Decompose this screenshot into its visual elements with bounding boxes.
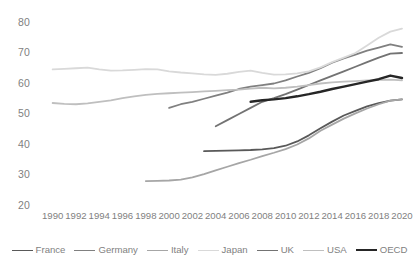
legend-item-italy[interactable]: Italy — [147, 244, 189, 256]
legend-item-usa[interactable]: USA — [303, 244, 347, 256]
legend-item-uk[interactable]: UK — [257, 244, 294, 256]
legend-swatch-icon — [257, 250, 278, 251]
legend-swatch-icon — [74, 250, 95, 251]
legend-swatch-icon — [12, 250, 33, 251]
series-line-italy — [146, 99, 402, 181]
legend-label: Japan — [222, 244, 248, 256]
legend-label: Italy — [171, 244, 189, 256]
legend-label: France — [36, 244, 66, 256]
legend-swatch-icon — [147, 250, 168, 251]
legend-item-france[interactable]: France — [12, 244, 66, 256]
legend-label: UK — [281, 244, 294, 256]
line-chart: 20304050607080 1990199219941996199820002… — [0, 0, 419, 267]
series-line-japan — [53, 29, 402, 75]
legend-swatch-icon — [356, 249, 377, 251]
legend-label: Germany — [98, 244, 137, 256]
legend-swatch-icon — [303, 250, 324, 251]
legend-item-oecd[interactable]: OECD — [356, 244, 408, 256]
legend-item-germany[interactable]: Germany — [74, 244, 137, 256]
legend-label: USA — [327, 244, 347, 256]
plot-area — [0, 0, 419, 267]
chart-legend: FranceGermanyItalyJapanUKUSAOECD — [0, 240, 419, 260]
legend-swatch-icon — [198, 250, 219, 251]
legend-label: OECD — [380, 244, 408, 256]
legend-item-japan[interactable]: Japan — [198, 244, 248, 256]
